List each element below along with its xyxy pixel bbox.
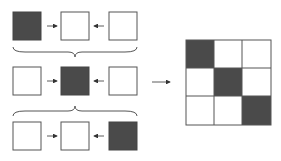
grid-cell-filled	[214, 68, 242, 96]
row-1	[13, 12, 137, 40]
grid-cell-filled	[186, 40, 214, 68]
brace-icon	[13, 106, 137, 116]
square-empty	[109, 67, 137, 95]
result-grid	[186, 40, 271, 125]
diagram-canvas	[0, 0, 281, 161]
square-filled	[13, 12, 41, 40]
square-empty	[13, 122, 41, 150]
square-filled	[61, 67, 89, 95]
square-empty	[109, 12, 137, 40]
row-2	[13, 67, 137, 95]
square-empty	[13, 67, 41, 95]
row-3	[13, 122, 137, 150]
square-empty	[61, 12, 89, 40]
grid-cell-filled	[242, 96, 271, 125]
square-filled	[109, 122, 137, 150]
square-empty	[61, 122, 89, 150]
brace-icon	[13, 47, 137, 57]
